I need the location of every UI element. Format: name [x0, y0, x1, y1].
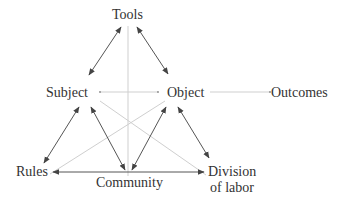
node-subject: Subject: [46, 85, 88, 100]
node-division-line1: Division: [208, 164, 256, 179]
object-community-arrow: [132, 107, 166, 170]
node-community: Community: [96, 175, 163, 190]
node-division-line2: of labor: [210, 180, 254, 195]
subject-division-line: [100, 101, 206, 175]
tools-subject-arrow: [89, 27, 121, 75]
object-division-arrow: [178, 107, 209, 158]
tools-object-arrow: [137, 27, 168, 74]
activity-system-diagram: [0, 0, 340, 203]
subject-rules-arrow: [44, 107, 79, 163]
subject-community-arrow: [91, 107, 125, 170]
node-tools: Tools: [112, 7, 143, 22]
node-rules: Rules: [16, 164, 48, 179]
node-object: Object: [167, 85, 204, 100]
node-outcomes: Outcomes: [271, 85, 328, 100]
object-dot-left: [157, 91, 159, 93]
subject-dot: [99, 91, 101, 93]
